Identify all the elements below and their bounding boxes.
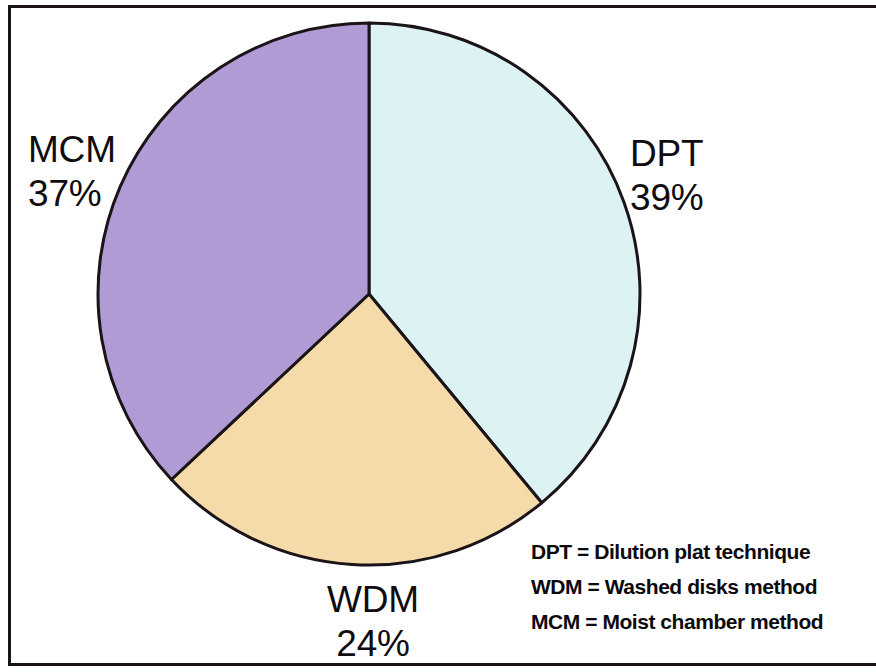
- legend-row-dpt: DPT = Dilution plat technique: [531, 534, 823, 569]
- slice-label-dpt-name: DPT: [630, 132, 703, 176]
- slice-label-wdm: WDM 24%: [298, 578, 448, 665]
- slice-label-mcm: MCM 37%: [28, 128, 116, 215]
- pie-slices: [98, 23, 640, 565]
- pie-chart-figure: MCM 37% DPT 39% WDM 24% DPT = Dilution p…: [0, 0, 876, 672]
- slice-label-dpt-percent: 39%: [630, 176, 703, 220]
- chart-plot-area: MCM 37% DPT 39% WDM 24% DPT = Dilution p…: [0, 0, 876, 672]
- legend-row-mcm: MCM = Moist chamber method: [531, 604, 823, 639]
- legend-row-wdm: WDM = Washed disks method: [531, 569, 823, 604]
- slice-label-mcm-name: MCM: [28, 128, 116, 172]
- slice-label-wdm-name: WDM: [298, 578, 448, 622]
- slice-label-dpt: DPT 39%: [630, 132, 703, 219]
- slice-label-wdm-percent: 24%: [298, 622, 448, 666]
- abbreviation-legend: DPT = Dilution plat technique WDM = Wash…: [531, 534, 823, 639]
- slice-label-mcm-percent: 37%: [28, 172, 116, 216]
